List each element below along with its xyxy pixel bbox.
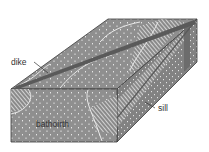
dike-label: dike [11,57,27,67]
block-diagram: dike sill bathoirth [0,0,209,152]
batholith-label: bathoirth [36,119,69,129]
sill-label: sill [158,103,168,113]
